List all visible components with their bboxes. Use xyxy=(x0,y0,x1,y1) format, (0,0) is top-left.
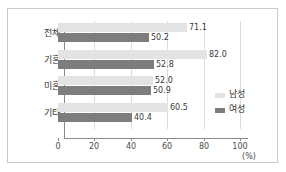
bar-female xyxy=(58,86,151,95)
x-axis-tick-label: 60 xyxy=(155,142,179,151)
x-axis-tickmark xyxy=(58,138,59,141)
legend-label-male: 남성 xyxy=(229,89,245,100)
bar-male xyxy=(58,23,187,32)
category-label: 미혼 xyxy=(14,81,60,91)
bar-value-label: 60.5 xyxy=(170,103,188,112)
bar-female xyxy=(58,60,154,69)
axis-unit-label: (%) xyxy=(237,152,261,161)
chart-frame: 020406080100 전체기혼미혼기타 71.150.282.052.852… xyxy=(7,8,278,163)
bar-value-label: 82.0 xyxy=(209,50,227,59)
chart-legend: 남성 여성 xyxy=(215,88,261,118)
bar-value-label: 52.0 xyxy=(155,76,173,85)
legend-swatch-female-icon xyxy=(215,108,225,113)
x-axis-line xyxy=(65,138,248,139)
bar-value-label: 50.2 xyxy=(151,33,169,42)
x-axis-tick-label: 0 xyxy=(46,142,70,151)
category-label: 기타 xyxy=(14,108,60,118)
legend-swatch-male-icon xyxy=(215,93,225,98)
legend-item-female: 여성 xyxy=(215,103,261,118)
legend-label-female: 여성 xyxy=(229,104,245,115)
legend-item-male: 남성 xyxy=(215,88,261,103)
bar-value-label: 52.8 xyxy=(156,60,174,69)
category-label: 기혼 xyxy=(14,55,60,65)
x-axis-tick-label: 100 xyxy=(228,142,252,151)
x-axis-tick-label: 40 xyxy=(119,142,143,151)
x-axis-tickmark xyxy=(167,138,168,141)
x-axis-tickmark xyxy=(94,138,95,141)
x-axis-tick-label: 20 xyxy=(82,142,106,151)
x-axis-tickmark xyxy=(204,138,205,141)
x-axis-tickmark xyxy=(240,138,241,141)
bar-male xyxy=(58,103,168,112)
bar-female xyxy=(58,33,149,42)
bar-value-label: 50.9 xyxy=(153,86,171,95)
x-axis-tickmark xyxy=(131,138,132,141)
bar-male xyxy=(58,76,153,85)
chart-figure: 020406080100 전체기혼미혼기타 71.150.282.052.852… xyxy=(0,0,286,172)
category-label: 전체 xyxy=(14,28,60,38)
bar-value-label: 40.4 xyxy=(134,113,152,122)
bar-male xyxy=(58,50,207,59)
bar-value-label: 71.1 xyxy=(189,23,207,32)
bar-female xyxy=(58,113,132,122)
x-axis-tick-label: 80 xyxy=(192,142,216,151)
gridline xyxy=(204,21,205,129)
